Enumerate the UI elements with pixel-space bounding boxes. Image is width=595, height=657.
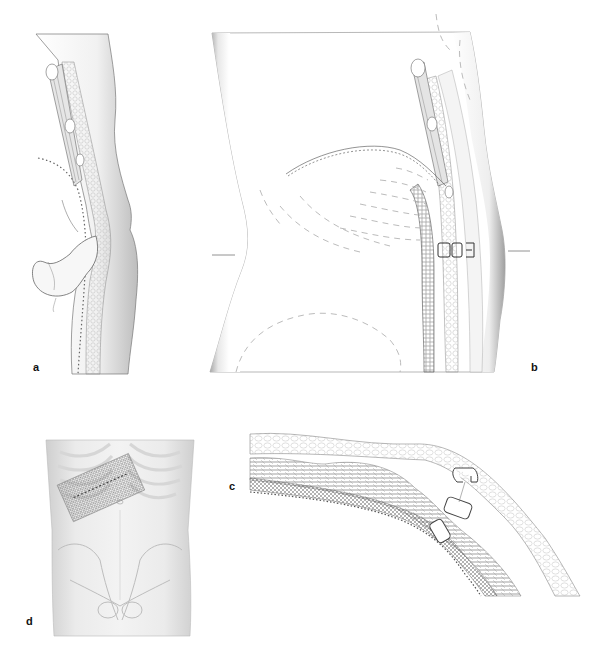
torso-frontal-mesh-drawing <box>40 430 200 640</box>
torso-lateral-mesh-drawing <box>200 0 595 390</box>
panel-label-c: c <box>229 481 235 492</box>
hernia-sagittal-drawing <box>0 0 200 390</box>
abdominal-wall-crosssection-drawing <box>245 428 595 608</box>
panel-a-illustration <box>0 0 200 390</box>
panel-c-illustration <box>245 428 595 608</box>
panel-label-b: b <box>531 362 538 373</box>
panel-d-illustration <box>40 430 200 640</box>
panel-b-illustration <box>200 0 595 390</box>
panel-label-d: d <box>26 616 33 627</box>
panel-label-a: a <box>33 362 39 373</box>
